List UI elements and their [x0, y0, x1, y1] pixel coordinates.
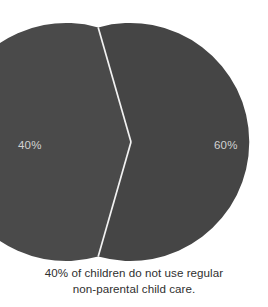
- pie-chart-svg: [0, 0, 268, 266]
- pie-chart-plot-area: 40% 60%: [0, 0, 268, 266]
- pie-slice-label-40: 40%: [18, 140, 42, 152]
- caption-line-1: 40% of children do not use regular: [0, 265, 268, 281]
- chart-caption: 40% of children do not use regular non-p…: [0, 265, 268, 297]
- pie-slice-label-60: 60%: [214, 140, 238, 152]
- pie-chart-figure: 40% 60% 40% of children do not use regul…: [0, 0, 268, 307]
- caption-line-2: non-parental child care.: [0, 281, 268, 297]
